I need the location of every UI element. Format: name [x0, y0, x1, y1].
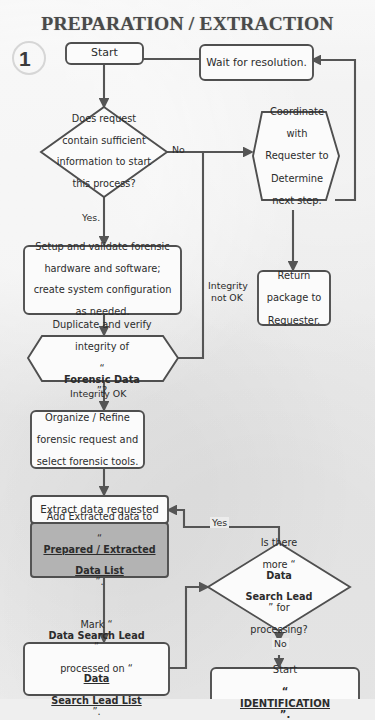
node-organize-shape	[31, 411, 144, 468]
edge-mark-to-decision-more	[169, 587, 208, 668]
edge-label-yes-more: Yes	[210, 517, 229, 528]
node-start-shape	[66, 43, 143, 64]
node-identification-shape	[211, 668, 359, 699]
step-number: 1	[19, 47, 31, 71]
node-decision-more-shape	[208, 543, 350, 631]
mark-line3-close: ”.	[26, 707, 167, 718]
edge-label-integrity-ok: Integrity OK	[70, 388, 126, 399]
edge-label-yes-request: Yes.	[82, 212, 100, 223]
edge-label-integrity-not-ok-1: Integrity	[208, 280, 248, 291]
node-wait-shape	[200, 45, 313, 80]
identification-quote-close: ”.	[213, 709, 357, 720]
flowchart-svg	[0, 40, 375, 699]
node-mark-shape	[24, 643, 169, 695]
edge-label-no-request: No	[172, 144, 185, 155]
node-decision-request-shape	[41, 107, 167, 197]
node-duplicate-shape	[28, 336, 178, 381]
identification-word: IDENTIFICATION	[240, 698, 330, 709]
page-title: PREPARATION / EXTRACTION	[0, 13, 375, 35]
edge-label-integrity-not-ok-2: not OK	[211, 292, 243, 303]
edge-label-no-more: No	[272, 638, 289, 649]
node-add-extracted-shape	[31, 523, 168, 577]
mark-line3: Search Lead List”.	[26, 696, 167, 718]
node-return-shape	[258, 271, 330, 325]
node-extract-shape	[31, 496, 168, 523]
node-coordinate-shape	[253, 112, 339, 200]
node-setup-shape	[24, 246, 181, 314]
flowchart-canvas: 1 Start Wait for resolution. Does reques…	[0, 40, 375, 699]
